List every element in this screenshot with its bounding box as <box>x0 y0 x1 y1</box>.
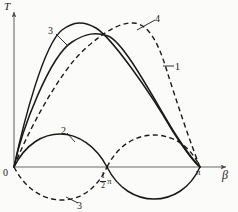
curve-2-upper-lobe <box>14 134 107 167</box>
x-axis-label: β <box>222 169 228 181</box>
origin-tick-label: 0 <box>3 168 8 178</box>
curve-3-lower-dashed-lobe <box>14 167 107 200</box>
fraction-one-half: 1 2 <box>100 172 106 190</box>
curve-label-1: 1 <box>175 62 180 72</box>
curve-2-lower-lobe <box>107 167 200 199</box>
y-axis-label: T <box>4 1 10 12</box>
x-tick-label-pi: π <box>196 168 201 177</box>
curve-label-4: 4 <box>155 14 160 24</box>
curve-label-3: 3 <box>48 26 53 36</box>
curve-1 <box>14 34 200 167</box>
x-tick-label-half-pi: 1 2 π <box>100 172 112 190</box>
curve-4 <box>14 23 200 167</box>
plot-area <box>0 0 238 212</box>
figure-container: T β 0 1 2 π π 1 2 3 4 3 <box>0 0 238 212</box>
curve-label-3-lower: 3 <box>77 201 82 211</box>
fraction-numerator: 1 <box>100 172 106 180</box>
leader-line-3 <box>56 34 67 45</box>
fraction-denominator: 2 <box>100 182 106 190</box>
leader-line-2 <box>67 133 75 142</box>
curve-label-2: 2 <box>61 126 66 136</box>
pi-symbol: π <box>107 177 112 186</box>
leader-line-4 <box>137 20 155 30</box>
curve-3 <box>14 23 200 167</box>
